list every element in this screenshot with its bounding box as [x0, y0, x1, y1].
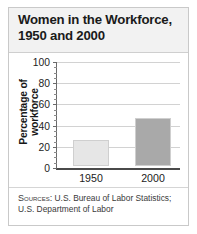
bar-1950 — [73, 140, 109, 167]
y-axis-tick — [53, 147, 57, 148]
x-axis-line — [56, 168, 180, 170]
y-axis-minor-tick — [54, 78, 57, 79]
y-axis-minor-tick — [54, 120, 57, 121]
gridline — [56, 104, 180, 105]
y-axis-minor-tick — [54, 157, 57, 158]
y-axis-tick — [53, 104, 57, 105]
y-axis-minor-tick — [54, 152, 57, 153]
y-axis-minor-tick — [54, 67, 57, 68]
y-axis-minor-tick — [54, 131, 57, 132]
y-axis-tick — [53, 83, 57, 84]
y-axis-minor-tick — [54, 89, 57, 90]
y-axis-tick-label: 100 — [33, 57, 50, 68]
y-axis-tick-label: 40 — [39, 120, 50, 131]
page-title: Women in the Workforce, 1950 and 2000 — [18, 12, 182, 43]
y-axis-tick-label: 20 — [39, 141, 50, 152]
y-axis-tick — [53, 62, 57, 63]
x-axis-tick-label: 2000 — [141, 172, 165, 184]
y-axis-tick-label: 80 — [39, 78, 50, 89]
y-axis-tick-label: 60 — [39, 99, 50, 110]
y-axis-minor-tick — [54, 73, 57, 74]
y-axis-minor-tick — [54, 136, 57, 137]
y-axis-tick — [53, 126, 57, 127]
gridline — [56, 83, 180, 84]
y-axis-minor-tick — [54, 99, 57, 100]
y-axis-tick-label: 0 — [44, 163, 50, 174]
card-header: Women in the Workforce, 1950 and 2000 — [9, 8, 188, 53]
y-axis-minor-tick — [54, 142, 57, 143]
sources-label: Sources: — [18, 193, 52, 203]
y-axis-minor-tick — [54, 110, 57, 111]
plot-region: 02040608010019502000 — [56, 62, 180, 168]
sources-text: Sources: U.S. Bureau of Labor Statistics… — [18, 193, 181, 215]
chart-card: Women in the Workforce, 1950 and 2000 Pe… — [8, 7, 189, 226]
bar-2000 — [135, 118, 171, 166]
y-axis-label: Percentage of workforce — [18, 56, 40, 168]
chart-area: Percentage of workforce 0204060801001950… — [9, 53, 188, 188]
y-axis-tick — [53, 168, 57, 169]
y-axis-minor-tick — [54, 163, 57, 164]
y-axis-minor-tick — [54, 115, 57, 116]
y-axis-minor-tick — [54, 94, 57, 95]
gridline — [56, 62, 180, 63]
x-axis-tick-label: 1950 — [79, 172, 103, 184]
sources-footer: Sources: U.S. Bureau of Labor Statistics… — [9, 187, 188, 225]
